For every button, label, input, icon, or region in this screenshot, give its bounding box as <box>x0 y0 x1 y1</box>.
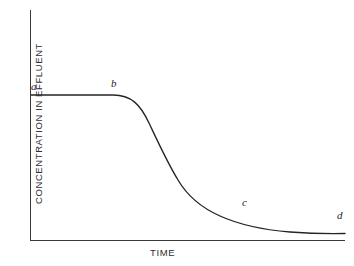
chart-plot-area <box>0 0 354 266</box>
curve-point-label-a: a <box>31 81 37 92</box>
breakthrough-curve <box>31 95 345 234</box>
x-axis-title: TIME <box>150 247 175 258</box>
y-axis-title: CONCENTRATION IN EFFLUENT <box>33 24 44 224</box>
curve-point-label-d: d <box>337 210 343 221</box>
curve-point-label-c: c <box>242 197 247 208</box>
curve-point-label-b: b <box>111 78 117 89</box>
chart-figure: CONCENTRATION IN EFFLUENT TIME a b c d <box>0 0 354 266</box>
